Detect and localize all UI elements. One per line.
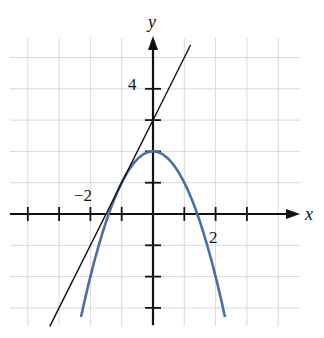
graph: y x −2 2 4	[0, 0, 324, 338]
y-axis-label: y	[146, 12, 156, 32]
y-axis-arrow-icon	[148, 36, 158, 50]
x-tick-label-2: 2	[209, 228, 218, 247]
x-axis-arrow-icon	[286, 209, 300, 219]
tangent-line	[50, 45, 191, 327]
y-tick-label-4: 4	[128, 75, 137, 94]
x-axis-label: x	[304, 204, 313, 224]
x-tick-label-neg2: −2	[74, 186, 92, 205]
